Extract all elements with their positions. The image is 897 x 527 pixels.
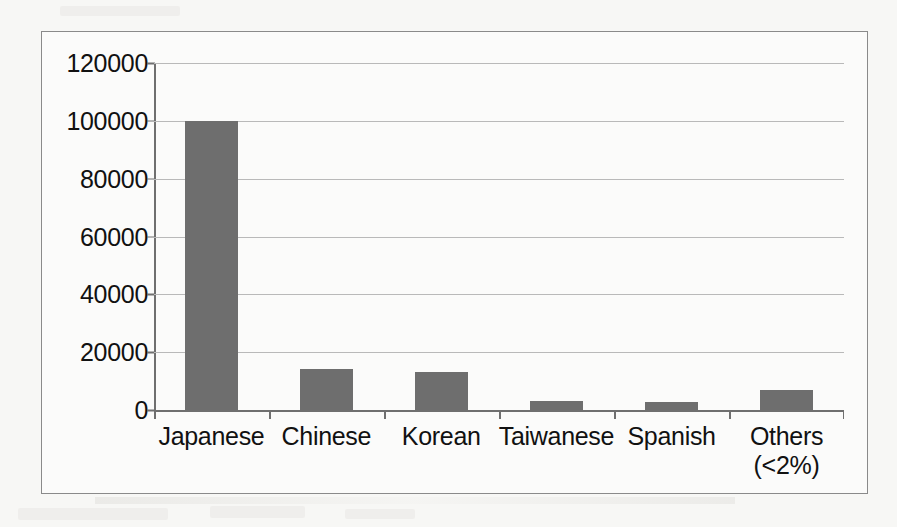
chart-frame: 120000 100000 80000 60000 40000 20000 0	[41, 31, 868, 494]
scan-artifact-bottom-right	[345, 509, 415, 519]
y-axis-tick-label: 0	[134, 398, 148, 423]
x-axis-ticks	[154, 410, 844, 419]
x-axis-label-text: Japanese	[158, 422, 264, 450]
bar-japanese	[185, 121, 238, 410]
y-axis-tick-label: 40000	[80, 282, 148, 307]
x-axis-label-taiwanese: Taiwanese	[499, 422, 614, 480]
bar-slot	[384, 63, 499, 410]
x-axis-label-text: Chinese	[282, 422, 372, 450]
y-axis-tick-label: 20000	[80, 340, 148, 365]
scan-artifact-edge-line	[95, 497, 735, 504]
bar-taiwanese	[530, 401, 583, 410]
scan-artifact-bottom-mid	[210, 506, 305, 518]
y-axis-tick-label: 120000	[66, 51, 148, 76]
scan-artifact-top-left	[60, 6, 180, 16]
x-axis-tick	[729, 410, 731, 419]
x-axis-label-japanese: Japanese	[154, 422, 269, 480]
bar-slot	[729, 63, 844, 410]
y-axis-tick-label: 100000	[66, 108, 148, 133]
x-axis-tick	[154, 410, 156, 419]
x-axis-label-sublabel: (<2%)	[729, 451, 844, 480]
x-axis-tick	[843, 410, 845, 419]
y-axis-tick-label: 60000	[80, 224, 148, 249]
bar-slot	[269, 63, 384, 410]
bar-slot	[499, 63, 614, 410]
x-axis-label-text: Others	[750, 422, 823, 450]
y-axis-tick-label: 80000	[80, 166, 148, 191]
x-axis-tick	[614, 410, 616, 419]
bar-chart: 120000 100000 80000 60000 40000 20000 0	[42, 32, 869, 495]
x-axis-labels: Japanese Chinese Korean Taiwanese Spanis…	[154, 422, 844, 480]
bar-korean	[415, 372, 468, 410]
x-axis-label-others: Others (<2%)	[729, 422, 844, 480]
scan-artifact-bottom-left	[18, 508, 168, 520]
bar-slot	[154, 63, 269, 410]
bar-chinese	[300, 369, 353, 410]
x-axis-tick	[384, 410, 386, 419]
x-axis-label-spanish: Spanish	[614, 422, 729, 480]
x-axis-label-text: Korean	[402, 422, 481, 450]
bar-slot	[614, 63, 729, 410]
plot-area	[154, 63, 844, 410]
bar-others	[760, 390, 813, 410]
x-axis-label-chinese: Chinese	[269, 422, 384, 480]
bar-spanish	[645, 402, 698, 410]
x-axis-tick	[499, 410, 501, 419]
y-axis-labels: 120000 100000 80000 60000 40000 20000 0	[42, 32, 148, 410]
bar-series	[154, 63, 844, 410]
x-axis-label-korean: Korean	[384, 422, 499, 480]
x-axis-tick	[269, 410, 271, 419]
x-axis-label-text: Taiwanese	[499, 422, 614, 450]
x-axis-label-text: Spanish	[627, 422, 715, 450]
